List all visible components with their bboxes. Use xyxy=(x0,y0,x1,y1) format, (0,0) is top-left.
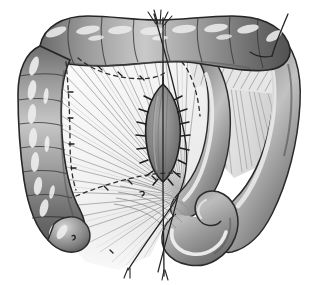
figure-root xyxy=(0,0,321,285)
anatomy-illustration xyxy=(0,0,321,285)
